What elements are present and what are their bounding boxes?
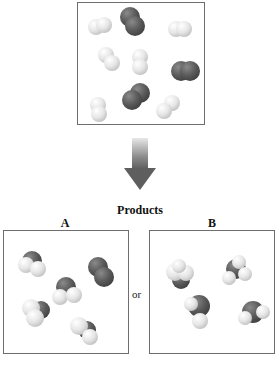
option-a-box [3,230,129,354]
option-b-box [149,230,275,354]
reactants-box [77,2,205,125]
products-title: Products [110,203,170,218]
or-separator: or [132,288,141,300]
down-arrow-icon [124,138,156,190]
option-a-label: A [55,216,75,231]
option-b-label: B [202,216,222,231]
